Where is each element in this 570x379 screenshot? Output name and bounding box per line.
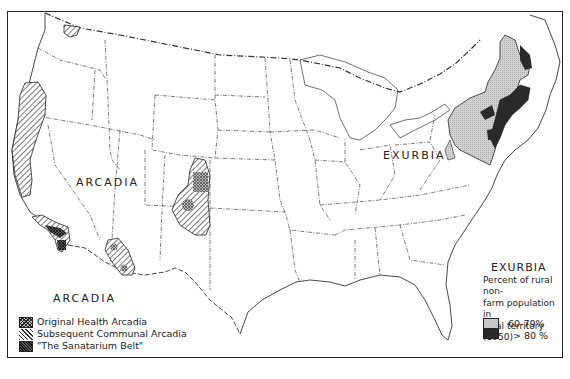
legend-item-original-health-arcadia: Original Health Arcadia <box>19 316 187 328</box>
dark-shade-swatch-icon <box>483 328 499 339</box>
diagonal-hatch-swatch-icon <box>19 329 33 340</box>
pacific-coast-arcadia <box>12 82 46 197</box>
colorado-new-mexico-arcadia <box>172 158 210 235</box>
legend-item-subsequent-communal-arcadia: Subsequent Communal Arcadia <box>19 328 187 340</box>
dark-crosshatch-swatch-icon <box>19 341 33 352</box>
legend-60-79-label: 60-79% <box>508 318 545 329</box>
state-borders <box>30 40 470 290</box>
arcadia-legend-heading: ARCADIA <box>53 292 116 305</box>
legend-80-plus-label: > 80 % <box>513 330 548 341</box>
crosshatch-swatch-icon <box>19 317 33 328</box>
legend-item-sanatarium-belt: "The Sanatarium Belt" <box>19 340 187 352</box>
exurbia-legend-heading: EXURBIA <box>491 262 565 274</box>
pacific-northwest-arcadia <box>64 25 80 37</box>
arcadia-legend: Original Health Arcadia Subsequent Commu… <box>19 316 187 352</box>
arizona-arcadia <box>105 238 135 275</box>
arcadia-map-label: ARCADIA <box>76 176 139 189</box>
exurbia-map-label: EXURBIA <box>383 149 446 162</box>
exurbia-legend-description-line-1: Percent of rural non- <box>483 275 565 298</box>
